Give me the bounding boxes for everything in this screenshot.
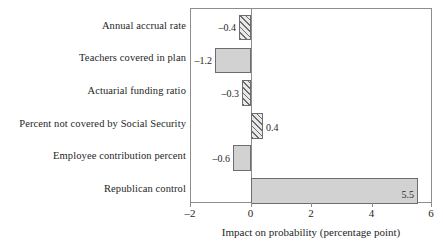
bar-4	[233, 145, 251, 171]
category-label-2: Actuarial funding ratio	[87, 85, 186, 97]
value-label-1: –1.2	[169, 55, 212, 66]
bar-0	[239, 15, 251, 40]
xtick-label-3: 4	[352, 207, 392, 220]
bar-2	[242, 80, 251, 106]
xtick-label-4: 6	[411, 207, 443, 220]
value-label-3: 0.4	[266, 122, 309, 133]
value-label-0: –0.4	[193, 22, 236, 33]
category-label-3: Percent not covered by Social Security	[19, 118, 186, 130]
plot-area: –0.4 –1.2 –0.3 0.4 –0.6 5.5	[190, 8, 432, 203]
xtick-label-0: –2	[170, 207, 210, 220]
bar-1	[215, 48, 251, 73]
bar-3	[251, 113, 263, 139]
bar-chart: Annual accrual rate Teachers covered in …	[0, 0, 443, 246]
category-axis-labels: Annual accrual rate Teachers covered in …	[0, 8, 186, 203]
x-axis-title: Impact on probability (percentage point)	[190, 226, 432, 239]
value-label-5: 5.5	[371, 189, 414, 200]
category-label-0: Annual accrual rate	[102, 20, 186, 32]
plot-inner: –0.4 –1.2 –0.3 0.4 –0.6 5.5	[191, 9, 431, 202]
category-label-4: Employee contribution percent	[53, 150, 186, 162]
xtick-label-2: 2	[291, 207, 331, 220]
value-label-2: –0.3	[196, 88, 239, 99]
xtick-label-1: 0	[231, 207, 271, 220]
value-label-4: –0.6	[187, 153, 230, 164]
category-label-5: Republican control	[104, 183, 186, 195]
zero-axis-line	[251, 9, 252, 202]
